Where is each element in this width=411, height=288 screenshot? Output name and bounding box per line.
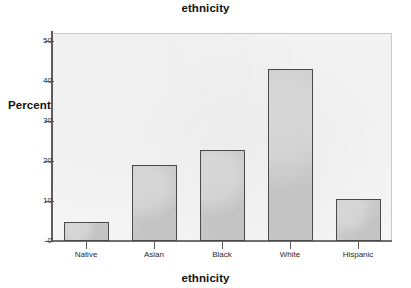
- x-tick-mark: [154, 242, 155, 249]
- x-tick-mark: [290, 242, 291, 249]
- bar: [268, 69, 313, 241]
- x-tick-mark: [358, 242, 359, 249]
- y-tick-mark: [45, 201, 54, 202]
- x-axis-title: ethnicity: [0, 272, 411, 284]
- x-tick-mark: [222, 242, 223, 249]
- bar: [132, 165, 177, 241]
- bar: [200, 150, 245, 241]
- x-tick-mark: [86, 242, 87, 249]
- y-tick-mark: [45, 81, 54, 82]
- bar-chart: ethnicity Percent 01020304050 NativeAsia…: [0, 0, 411, 288]
- bar: [336, 199, 381, 241]
- y-tick-mark: [45, 161, 54, 162]
- y-tick-mark: [45, 41, 54, 42]
- bar: [64, 222, 109, 241]
- y-tick-mark: [45, 241, 54, 242]
- x-tick-label: Hispanic: [313, 250, 403, 259]
- y-axis-line: [51, 31, 53, 242]
- y-tick-mark: [45, 121, 54, 122]
- chart-title: ethnicity: [0, 2, 411, 14]
- y-axis-title: Percent: [8, 99, 51, 111]
